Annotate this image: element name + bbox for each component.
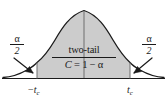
tick-label-positive-tc: tc [127, 84, 133, 99]
confidence-variable: C [65, 59, 72, 70]
denominator-two-right: 2 [141, 45, 157, 56]
confidence-level-label: C = 1 − α [50, 59, 118, 71]
two-tail-annotation: two-tail C = 1 − α [50, 44, 118, 71]
t-subscript-right: c [130, 89, 133, 97]
alpha-over-two-left: α 2 [9, 33, 25, 56]
annotation-divider [52, 57, 116, 58]
two-tail-label: two-tail [50, 44, 118, 56]
confidence-expression: = 1 − α [72, 59, 104, 70]
tick-label-negative-tc: −tc [28, 84, 40, 99]
alpha-symbol-left: α [9, 33, 25, 44]
t-subscript-left: c [36, 89, 39, 97]
alpha-over-two-right: α 2 [141, 33, 157, 56]
denominator-two-left: 2 [9, 45, 25, 56]
alpha-symbol-right: α [141, 33, 157, 44]
two-tail-distribution-figure: α 2 α 2 two-tail C = 1 − α −tc tc [0, 0, 167, 103]
